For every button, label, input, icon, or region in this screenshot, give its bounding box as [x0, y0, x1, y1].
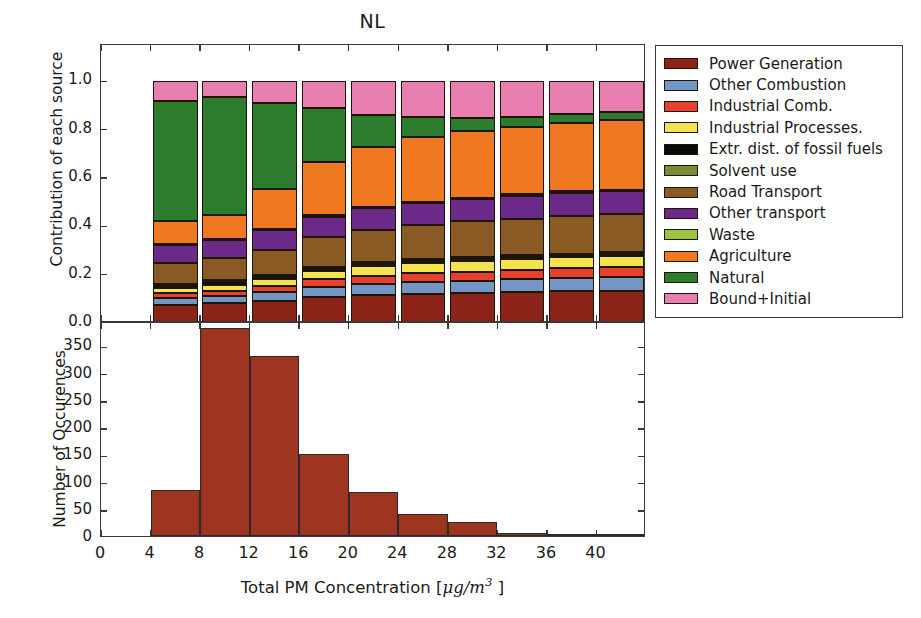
legend: Power GenerationOther CombustionIndustri…: [655, 45, 903, 318]
x-tick-bottom-upper: [348, 323, 350, 329]
y-tick-top: [101, 129, 107, 131]
stacked-bar-segment: [401, 137, 446, 202]
legend-item[interactable]: Waste: [664, 224, 894, 245]
x-tick-top-panel-upper: [150, 45, 152, 51]
stacked-bar: [549, 45, 594, 321]
stacked-bar-segment: [202, 282, 247, 284]
x-tick-label: 32: [471, 543, 521, 562]
histogram-bar: [250, 356, 300, 536]
legend-swatch-icon: [664, 187, 698, 198]
stacked-bar-segment: [401, 294, 446, 321]
x-tick-top-panel: [447, 315, 449, 321]
y-tick-label-bottom: 100: [30, 473, 92, 491]
stacked-bar-segment: [202, 258, 247, 280]
stacked-bar-segment: [450, 272, 495, 281]
x-tick-bottom-upper: [101, 323, 102, 329]
legend-label: Industrial Comb.: [709, 97, 833, 115]
stacked-bar-segment: [549, 278, 594, 291]
stacked-bar-segment: [252, 292, 297, 300]
histogram-bar: [200, 328, 250, 536]
stacked-bar-segment: [450, 221, 495, 257]
y-tick-bottom-right: [638, 456, 644, 458]
x-tick-top-panel-upper: [546, 45, 548, 51]
stacked-bar-segment: [153, 245, 198, 262]
legend-item[interactable]: Industrial Comb.: [664, 96, 894, 117]
legend-item[interactable]: Other transport: [664, 203, 894, 224]
stacked-bar-segment: [450, 198, 495, 200]
y-tick-label-top: 0.8: [30, 119, 92, 137]
stacked-bar-segment: [302, 267, 347, 269]
legend-item[interactable]: Other Combustion: [664, 74, 894, 95]
legend-item[interactable]: Natural: [664, 267, 894, 288]
stacked-bar-segment: [202, 215, 247, 239]
y-tick-bottom-right: [638, 510, 644, 512]
histogram-bar: [497, 533, 547, 536]
stacked-bar-segment: [202, 239, 247, 241]
stacked-bar-segment: [549, 81, 594, 114]
legend-label: Natural: [709, 269, 764, 287]
y-tick-top: [101, 177, 107, 179]
stacked-bar-segment: [401, 273, 446, 282]
stacked-bar-segment: [401, 282, 446, 294]
stacked-bar-segment: [351, 208, 396, 230]
x-tick-bottom-upper: [298, 323, 300, 329]
x-tick-top-panel-upper: [447, 45, 449, 51]
stacked-bar-segment: [351, 264, 396, 266]
stacked-bar-segment: [450, 281, 495, 294]
x-tick-top-panel: [101, 315, 102, 321]
y-tick-bottom-right: [638, 401, 644, 403]
stacked-bar-segment: [549, 291, 594, 321]
legend-item[interactable]: Road Transport: [664, 181, 894, 202]
stacked-bar-segment: [202, 240, 247, 258]
legend-swatch-icon: [664, 101, 698, 112]
stacked-bar-panel: [100, 44, 645, 322]
stacked-bar-segment: [202, 81, 247, 97]
stacked-bar-segment: [153, 284, 198, 286]
xlabel-exponent: 3: [485, 575, 493, 589]
stacked-bar-segment: [202, 285, 247, 291]
stacked-bar-segment: [252, 81, 297, 103]
stacked-bar-segment: [401, 202, 446, 204]
stacked-bar-segment: [450, 131, 495, 197]
stacked-bar-segment: [549, 123, 594, 192]
stacked-bar-segment: [302, 279, 347, 286]
legend-item[interactable]: Power Generation: [664, 53, 894, 74]
legend-label: Power Generation: [709, 55, 843, 73]
y-tick-label-bottom: 350: [30, 336, 92, 354]
x-tick-label: 0: [75, 543, 125, 562]
stacked-bar: [252, 45, 297, 321]
stacked-bar-segment: [351, 147, 396, 208]
stacked-bar-segment: [302, 81, 347, 108]
legend-item[interactable]: Agriculture: [664, 246, 894, 267]
legend-swatch-icon: [664, 58, 698, 69]
stacked-bar-segment: [599, 254, 644, 256]
stacked-bar: [500, 45, 545, 321]
legend-item[interactable]: Extr. dist. of fossil fuels: [664, 139, 894, 160]
stacked-bar-segment: [153, 288, 198, 293]
y-tick-bottom: [101, 428, 107, 430]
stacked-bar-segment: [302, 269, 347, 271]
stacked-bar-segment: [351, 262, 396, 264]
stacked-bar-segment: [549, 193, 594, 216]
x-tick-label: 36: [521, 543, 571, 562]
x-tick-bottom-upper: [398, 323, 400, 329]
stacked-bar-segment: [599, 190, 644, 192]
y-tick-label-bottom: 200: [30, 418, 92, 436]
x-tick-bottom-upper: [596, 323, 598, 329]
histogram-bar: [299, 454, 349, 536]
stacked-bar-segment: [401, 117, 446, 137]
figure-canvas: NL Contribution of each source Number of…: [0, 0, 921, 618]
x-tick-top-panel: [546, 315, 548, 321]
histogram-bar: [448, 522, 498, 536]
stacked-bar-segment: [549, 216, 594, 254]
legend-item[interactable]: Industrial Processes.: [664, 117, 894, 138]
x-tick-top-panel: [199, 315, 201, 321]
legend-item[interactable]: Bound+Initial: [664, 288, 894, 309]
stacked-bar-segment: [351, 207, 396, 209]
stacked-bar-segment: [351, 276, 396, 284]
x-tick-label: 28: [422, 543, 472, 562]
stacked-bar-segment: [252, 103, 297, 189]
stacked-bar-segment: [599, 112, 644, 120]
legend-item[interactable]: Solvent use: [664, 160, 894, 181]
stacked-bar-segment: [252, 229, 297, 231]
